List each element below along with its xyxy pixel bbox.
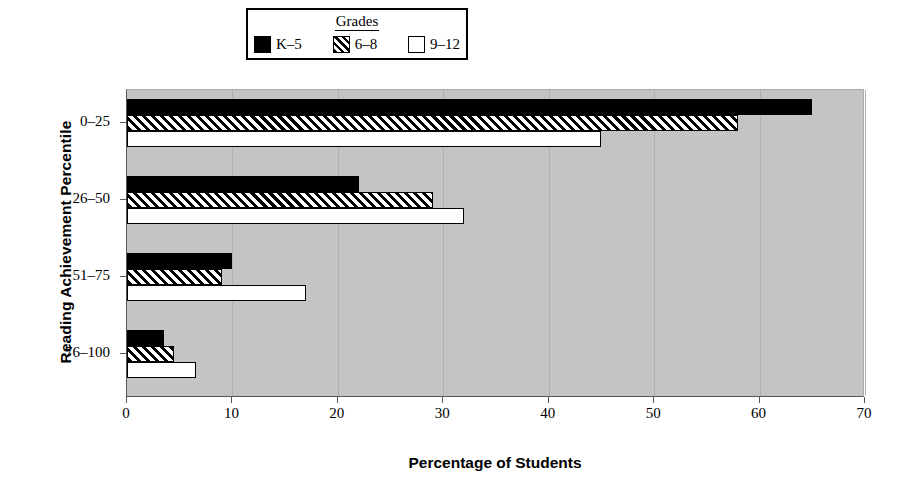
bar-9-12-26-50: [127, 208, 464, 224]
x-tick-label-50: 50: [623, 405, 683, 422]
y-tick-label-26-50: 26–50: [0, 190, 110, 207]
x-tick-label-20: 20: [307, 405, 367, 422]
bar-K-5-51-75: [127, 253, 232, 269]
legend-label-6-8: 6–8: [355, 36, 378, 53]
x-axis-title: Percentage of Students: [126, 454, 864, 472]
bar-K-5-0-25: [127, 99, 812, 115]
x-tick-label-40: 40: [518, 405, 578, 422]
y-tick-0: [120, 122, 126, 123]
legend-title-text: Grades: [335, 13, 379, 31]
x-tick-label-0: 0: [96, 405, 156, 422]
legend-label-k-5: K–5: [276, 36, 302, 53]
bar-group-26-50: [127, 167, 863, 244]
y-tick-3: [120, 353, 126, 354]
gridline-70: [865, 90, 866, 396]
legend-items: K–5 6–8 9–12: [254, 36, 460, 53]
bar-9-12-76-100: [127, 362, 196, 378]
solid-swatch-icon: [254, 36, 271, 53]
legend-item-k-5: K–5: [254, 36, 302, 53]
white-swatch-icon: [408, 36, 425, 53]
legend-item-9-12: 9–12: [408, 36, 460, 53]
x-tick-label-10: 10: [201, 405, 261, 422]
x-tick-10: [231, 397, 232, 403]
x-tick-60: [759, 397, 760, 403]
x-tick-40: [548, 397, 549, 403]
bar-6-8-0-25: [127, 115, 738, 131]
x-tick-label-70: 70: [834, 405, 894, 422]
bar-K-5-76-100: [127, 330, 164, 346]
y-tick-label-76-100: 76–100: [0, 344, 110, 361]
legend-title: Grades: [248, 13, 466, 30]
chart-legend: Grades K–5 6–8 9–12: [246, 8, 468, 60]
plot-area: [126, 89, 864, 397]
y-tick-2: [120, 276, 126, 277]
x-tick-label-60: 60: [729, 405, 789, 422]
bar-chart-figure: Grades K–5 6–8 9–12 Reading Achievement …: [0, 0, 921, 493]
x-tick-label-30: 30: [412, 405, 472, 422]
x-tick-50: [653, 397, 654, 403]
bar-6-8-51-75: [127, 269, 222, 285]
bar-6-8-26-50: [127, 192, 433, 208]
legend-label-9-12: 9–12: [430, 36, 460, 53]
y-tick-label-0-25: 0–25: [0, 113, 110, 130]
y-tick-label-51-75: 51–75: [0, 267, 110, 284]
bar-6-8-76-100: [127, 346, 174, 362]
x-tick-30: [442, 397, 443, 403]
bar-9-12-51-75: [127, 285, 306, 301]
bar-9-12-0-25: [127, 131, 601, 147]
legend-item-6-8: 6–8: [333, 36, 378, 53]
bar-group-0-25: [127, 90, 863, 167]
hatched-swatch-icon: [333, 36, 350, 53]
y-tick-1: [120, 199, 126, 200]
bar-group-76-100: [127, 321, 863, 398]
bar-group-51-75: [127, 244, 863, 321]
x-tick-0: [126, 397, 127, 403]
x-tick-20: [337, 397, 338, 403]
bar-K-5-26-50: [127, 176, 359, 192]
x-tick-70: [864, 397, 865, 403]
